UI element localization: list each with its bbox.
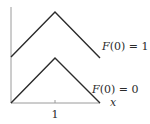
tent-function-chart: 1 x F(0) = 1 F(0) = 0 xyxy=(0,0,150,124)
annotation-f0-equals-1: F(0) = 1 xyxy=(101,40,148,53)
x-axis-label: x xyxy=(110,96,117,109)
curve-f0-equals-1 xyxy=(11,12,100,58)
x-tick-label-1: 1 xyxy=(52,108,59,121)
annotation-f0-equals-0: F(0) = 0 xyxy=(91,83,138,96)
curve-f0-equals-0 xyxy=(11,58,100,103)
